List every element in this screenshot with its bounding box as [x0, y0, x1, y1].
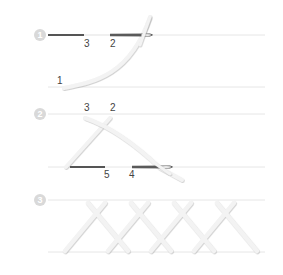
thread-overlap [156, 164, 170, 174]
point-label: 3 [84, 102, 90, 113]
step-1-badge: 1 [34, 29, 46, 41]
herringbone-pattern [65, 203, 257, 251]
step-2: 2 3 2 5 4 [34, 102, 265, 180]
thread-curve [64, 17, 150, 88]
step-number: 2 [37, 109, 42, 119]
point-label: 2 [110, 102, 116, 113]
needle-icon [132, 166, 173, 169]
point-label: 5 [104, 169, 110, 180]
step-3: 3 [34, 194, 265, 252]
step-number: 3 [37, 195, 42, 205]
step-2-badge: 2 [34, 108, 46, 120]
step-1: 1 3 2 1 [34, 17, 265, 88]
point-label: 4 [129, 169, 135, 180]
needle-icon [110, 34, 153, 37]
herringbone-stitch-diagram: 1 3 2 1 2 [0, 0, 283, 275]
point-label: 3 [84, 38, 90, 49]
point-label: 2 [110, 38, 116, 49]
thread-overlap [140, 17, 150, 45]
point-label: 1 [57, 75, 63, 86]
step-3-badge: 3 [34, 194, 46, 206]
step-number: 1 [37, 30, 42, 40]
